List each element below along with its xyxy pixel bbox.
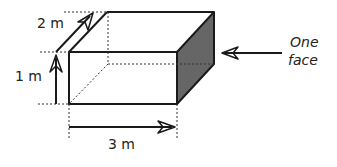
shaded-face <box>177 12 214 104</box>
depth-label: 2 m <box>37 15 64 31</box>
width-label: 3 m <box>108 136 135 152</box>
face-label-line1: One <box>290 34 319 50</box>
height-label: 1 m <box>15 68 42 84</box>
hidden-bottom-diagonal <box>69 64 108 104</box>
face-label-line2: face <box>288 52 318 68</box>
front-face <box>69 52 177 104</box>
